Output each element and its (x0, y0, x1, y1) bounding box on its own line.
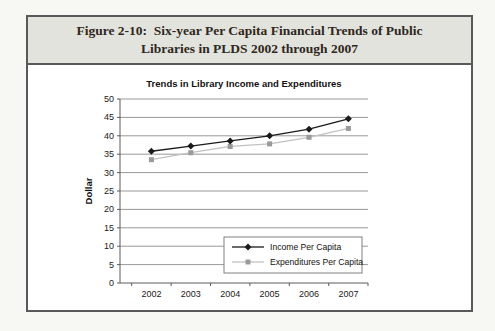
series-1-marker-2002 (149, 157, 154, 162)
x-tick-label-2004: 2004 (220, 289, 240, 299)
x-tick-label-2007: 2007 (338, 289, 358, 299)
series-0-marker-2007 (345, 115, 352, 122)
legend-sample-marker-1 (246, 260, 251, 265)
series-0-marker-2006 (306, 126, 313, 133)
y-axis-title: Dollar (83, 177, 94, 204)
x-tick-label-2006: 2006 (299, 289, 319, 299)
line-chart: 0510152025303540455020022003200420052006… (28, 65, 471, 310)
x-tick-label-2003: 2003 (181, 289, 201, 299)
y-tick-label: 25 (104, 186, 114, 196)
y-tick-label: 50 (104, 94, 114, 104)
y-tick-label: 20 (104, 204, 114, 214)
y-tick-label: 10 (104, 241, 114, 251)
y-tick-label: 15 (104, 223, 114, 233)
y-tick-label: 5 (109, 260, 114, 270)
x-tick-label-2002: 2002 (141, 289, 161, 299)
legend: Income Per CapitaExpenditures Per Capita (224, 237, 363, 273)
legend-label-0: Income Per Capita (270, 242, 341, 252)
series-1-marker-2004 (228, 144, 233, 149)
y-tick-label: 45 (104, 112, 114, 122)
series-0-marker-2004 (227, 137, 234, 144)
figure-title: Figure 2-10: Six-year Per Capita Financi… (28, 17, 471, 65)
series-0-marker-2005 (266, 132, 273, 139)
figure-title-line2: Libraries in PLDS 2002 through 2007 (141, 40, 358, 58)
figure-box: Figure 2-10: Six-year Per Capita Financi… (26, 15, 473, 312)
legend-label-1: Expenditures Per Capita (270, 257, 363, 267)
y-tick-label: 0 (109, 278, 114, 288)
y-tick-label: 30 (104, 168, 114, 178)
series-1-marker-2005 (267, 141, 272, 146)
x-tick-label-2005: 2005 (260, 289, 280, 299)
series-0-marker-2003 (187, 143, 194, 150)
series-1 (149, 126, 351, 162)
figure-title-line1: Figure 2-10: Six-year Per Capita Financi… (76, 22, 422, 40)
y-tick-label: 35 (104, 149, 114, 159)
series-1-marker-2003 (188, 150, 193, 155)
series-1-marker-2006 (307, 135, 312, 140)
y-tick-label: 40 (104, 131, 114, 141)
chart-area: 0510152025303540455020022003200420052006… (28, 65, 471, 310)
series-1-marker-2007 (346, 126, 351, 131)
series-1-line (151, 128, 348, 159)
chart-title: Trends in Library Income and Expenditure… (146, 78, 341, 89)
